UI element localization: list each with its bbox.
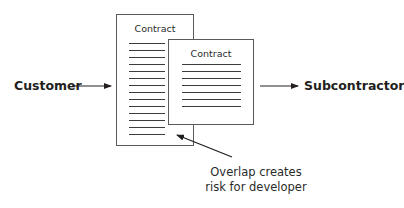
annotation-line-1: Overlap creates — [196, 165, 316, 180]
overlap-pointer-arrow — [177, 135, 232, 157]
overlap-annotation: Overlap creates risk for developer — [196, 165, 316, 195]
annotation-line-2: risk for developer — [196, 180, 316, 195]
